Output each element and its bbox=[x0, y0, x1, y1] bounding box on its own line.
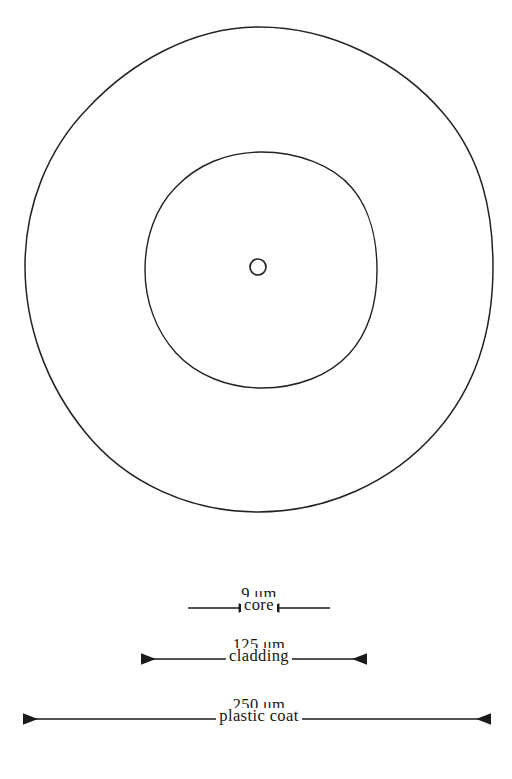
cladding-dimension-labels: 125 μm cladding bbox=[174, 637, 344, 642]
cladding-dimension-name-wrap: cladding bbox=[174, 648, 344, 665]
cladding-dimension-name: cladding bbox=[226, 648, 292, 665]
core-circle bbox=[250, 259, 266, 275]
plastic-coat-dimension-name: plastic coat bbox=[216, 708, 301, 725]
plastic-coat-circle bbox=[25, 27, 493, 512]
cladding-circle bbox=[145, 152, 377, 388]
fiber-cross-section-figure: 9 μm core 125 μm cladding 250 μm plastic… bbox=[0, 0, 512, 779]
plastic-coat-dimension-name-wrap: plastic coat bbox=[168, 708, 350, 725]
plastic-coat-dimension-labels: 250 μm plastic coat bbox=[168, 697, 350, 702]
concentric-circles-group bbox=[25, 27, 493, 512]
core-dimension-name-wrap: core bbox=[179, 597, 339, 614]
core-dimension-name: core bbox=[241, 597, 277, 614]
core-dimension-labels: 9 μm core bbox=[179, 586, 339, 591]
